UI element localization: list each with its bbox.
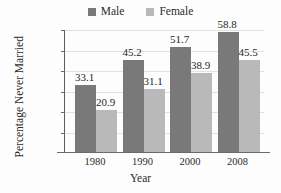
bar-value-label: 51.7: [163, 34, 197, 45]
bar-value-label: 45.5: [231, 47, 265, 58]
y-axis-tick: [61, 30, 65, 31]
bar-female-2008: [239, 60, 260, 153]
male-swatch-icon: [88, 8, 96, 16]
bar-male-1980: [75, 85, 96, 153]
chart-legend: Male Female: [0, 4, 281, 20]
x-axis-title: Year: [0, 173, 281, 185]
y-axis-tick: [61, 133, 65, 134]
bar-value-label: 45.2: [115, 47, 149, 58]
bar-male-1990: [123, 60, 144, 153]
legend-entry-male: Male: [88, 6, 125, 18]
bar-value-label: 33.1: [68, 72, 102, 83]
x-axis-tick-label-1990: 1990: [119, 157, 167, 168]
y-axis-tick: [61, 51, 65, 52]
bar-value-label: 58.8: [210, 19, 244, 30]
x-axis-tick-label-1980: 1980: [71, 157, 119, 168]
x-axis-line: [57, 152, 270, 153]
y-axis-title: Percentage Never Married: [14, 27, 26, 167]
bar-value-label: 20.9: [89, 97, 123, 108]
bar-chart-figure: Male Female Percentage Never Married Yea…: [0, 0, 281, 193]
bar-female-1980: [96, 110, 117, 153]
legend-entry-female: Female: [146, 6, 193, 18]
bar-female-1990: [144, 89, 165, 153]
legend-label-female: Female: [159, 6, 193, 18]
x-axis-tick-label-2008: 2008: [214, 157, 262, 168]
y-axis-tick: [61, 112, 65, 113]
y-axis-tick: [61, 71, 65, 72]
bar-value-label: 31.1: [136, 76, 170, 87]
female-swatch-icon: [146, 8, 154, 16]
bar-female-2000: [191, 73, 212, 153]
bar-value-label: 38.9: [184, 60, 218, 71]
y-axis-tick: [61, 92, 65, 93]
legend-label-male: Male: [101, 6, 125, 18]
x-axis-tick-label-2000: 2000: [166, 157, 214, 168]
